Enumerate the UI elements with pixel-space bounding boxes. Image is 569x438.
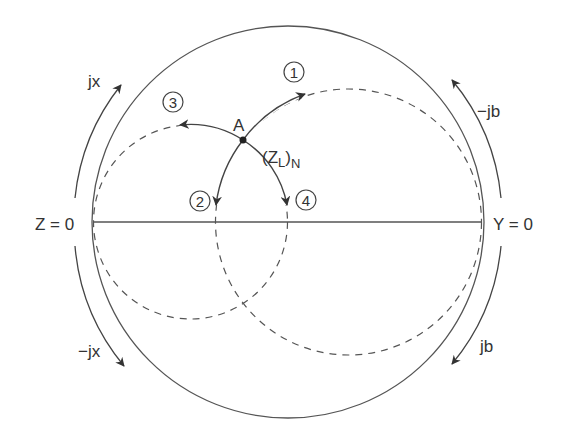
neg-jb-arrow — [452, 80, 501, 198]
jb-arrow — [452, 246, 501, 364]
neg-jb-label: −jb — [477, 102, 500, 121]
neg-jx-label: −jx — [78, 342, 101, 361]
svg-text:4: 4 — [302, 192, 310, 209]
path-4-badge: 4 — [296, 190, 316, 210]
smith-chart-diagram: Z = 0 Y = 0 jx −jx −jb jb A (ZL)N 1 2 3 … — [0, 0, 569, 438]
jx-label: jx — [87, 72, 101, 91]
path-1-arrow — [243, 94, 305, 140]
jb-label: jb — [479, 337, 493, 356]
path-3-badge: 3 — [163, 92, 183, 112]
path-1-badge: 1 — [284, 62, 304, 82]
y-zero-label: Y = 0 — [493, 215, 533, 234]
path-2-badge: 2 — [190, 191, 210, 211]
path-2-arrow — [216, 140, 243, 205]
jx-arrow — [75, 85, 121, 198]
z-zero-label: Z = 0 — [35, 215, 74, 234]
svg-text:2: 2 — [196, 193, 204, 210]
point-a-dot — [240, 137, 247, 144]
point-a-label: A — [233, 116, 245, 135]
svg-text:3: 3 — [169, 94, 177, 111]
zl-normalized-label: (ZL)N — [262, 148, 300, 171]
svg-text:1: 1 — [290, 64, 298, 81]
